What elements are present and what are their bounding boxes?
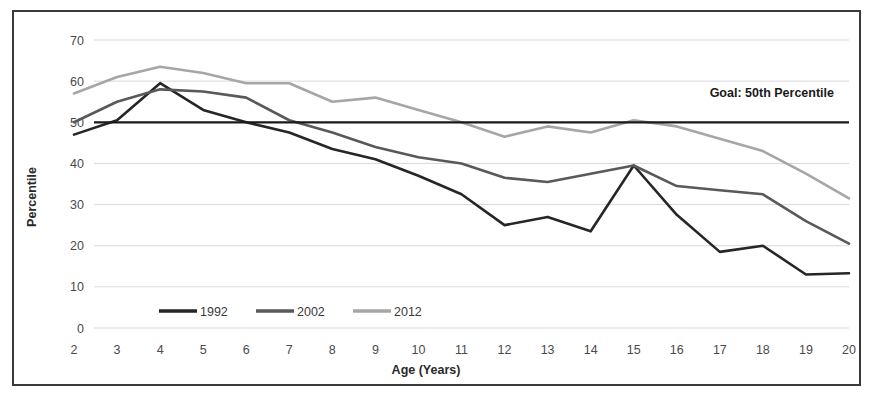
x-tick-label: 15 bbox=[627, 343, 641, 357]
x-tick-label: 9 bbox=[372, 343, 379, 357]
chart-frame: 010203040506070 234567891011121314151617… bbox=[12, 10, 861, 386]
gridlines-group bbox=[94, 40, 849, 328]
y-tick-label: 60 bbox=[70, 75, 84, 89]
x-tick-label: 18 bbox=[756, 343, 770, 357]
chart-figure: 010203040506070 234567891011121314151617… bbox=[0, 0, 873, 398]
x-tick-label: 13 bbox=[541, 343, 555, 357]
y-tick-label: 20 bbox=[70, 239, 84, 253]
x-axis-title: Age (Years) bbox=[392, 363, 461, 377]
x-tick-label: 19 bbox=[799, 343, 813, 357]
x-tick-label: 8 bbox=[329, 343, 336, 357]
legend-label-2002: 2002 bbox=[297, 305, 325, 319]
y-tick-label: 40 bbox=[70, 157, 84, 171]
x-tick-label: 16 bbox=[670, 343, 684, 357]
x-tick-label: 20 bbox=[842, 343, 856, 357]
y-tick-label: 10 bbox=[70, 280, 84, 294]
legend-label-1992: 1992 bbox=[200, 305, 228, 319]
x-tick-label: 17 bbox=[713, 343, 727, 357]
legend-label-2012: 2012 bbox=[394, 305, 422, 319]
x-tick-label: 4 bbox=[157, 343, 164, 357]
x-axis-tick-labels: 234567891011121314151617181920 bbox=[71, 343, 856, 357]
y-tick-label: 30 bbox=[70, 198, 84, 212]
y-tick-label: 0 bbox=[77, 322, 84, 336]
x-tick-label: 11 bbox=[455, 343, 468, 357]
chart-legend: 199220022012 bbox=[159, 305, 422, 319]
line-chart-plot: 010203040506070 234567891011121314151617… bbox=[14, 12, 859, 384]
x-tick-label: 12 bbox=[498, 343, 512, 357]
goal-annotation-label: Goal: 50th Percentile bbox=[710, 86, 834, 100]
x-tick-label: 14 bbox=[584, 343, 598, 357]
x-tick-label: 2 bbox=[71, 343, 78, 357]
x-tick-label: 7 bbox=[286, 343, 293, 357]
x-tick-label: 3 bbox=[114, 343, 121, 357]
series-line-2002 bbox=[74, 89, 849, 243]
x-tick-label: 6 bbox=[243, 343, 250, 357]
y-axis-tick-labels: 010203040506070 bbox=[70, 34, 84, 336]
y-tick-label: 70 bbox=[70, 34, 84, 48]
y-axis-title: Percentile bbox=[25, 167, 39, 227]
x-tick-label: 5 bbox=[200, 343, 207, 357]
x-tick-label: 10 bbox=[411, 343, 425, 357]
